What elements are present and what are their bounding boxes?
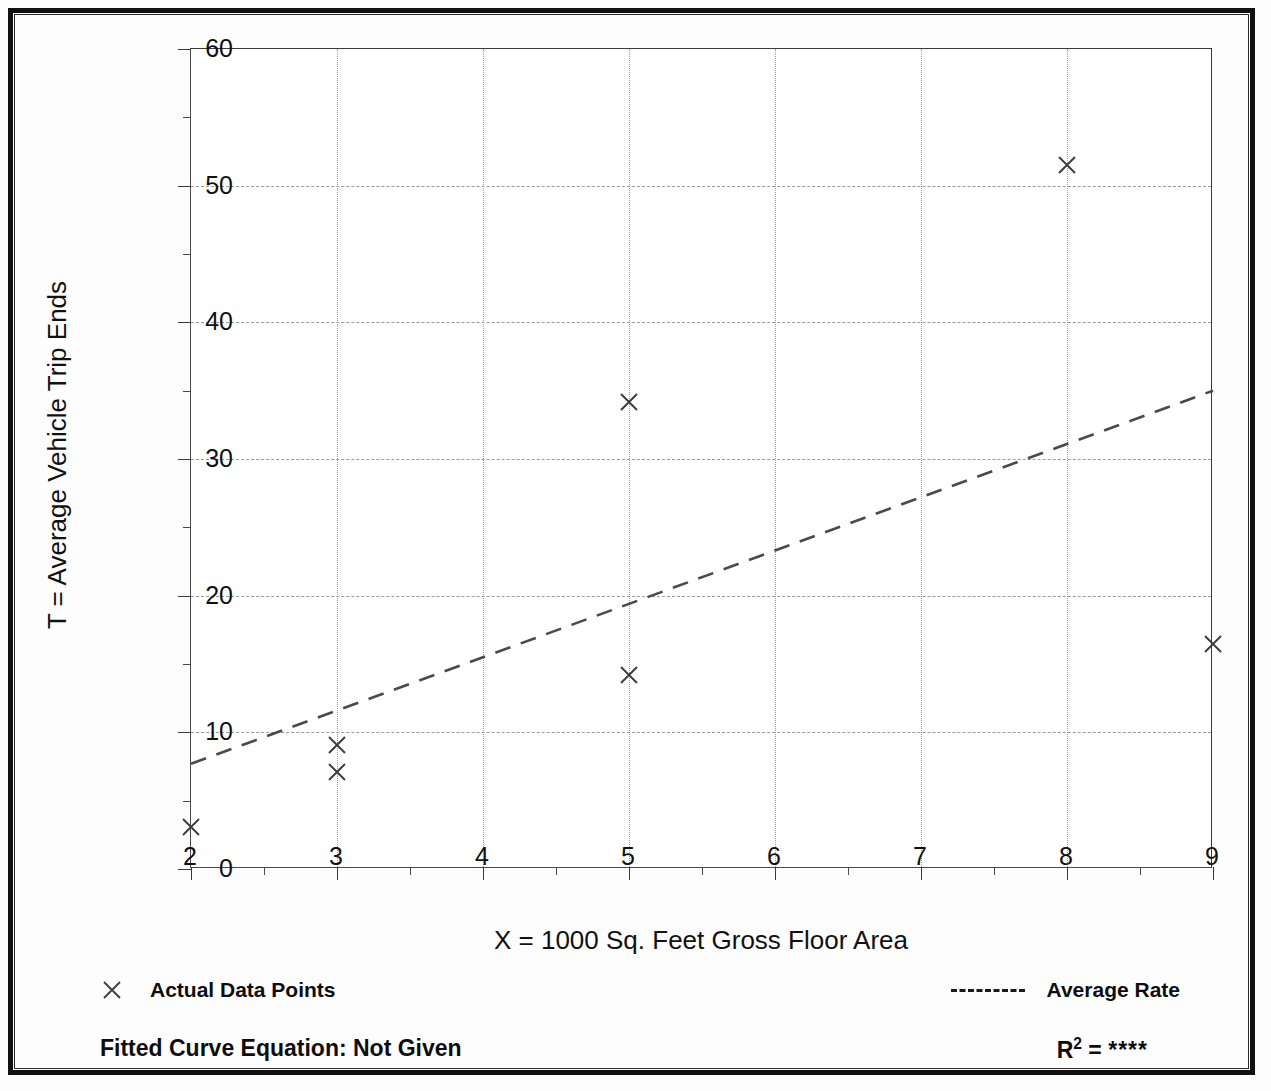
y-tick-label: 50 <box>205 170 233 199</box>
y-tick-label: 20 <box>205 580 233 609</box>
fitted-curve-equation: Fitted Curve Equation: Not Given <box>100 1035 462 1062</box>
chart-footer: Fitted Curve Equation: Not Given R2 = **… <box>100 1035 1180 1075</box>
legend-label-average-rate: Average Rate <box>1047 978 1180 1002</box>
x-marker-icon <box>100 978 124 1002</box>
y-axis-title: T = Average Vehicle Trip Ends <box>42 281 73 629</box>
chart-legend: Actual Data Points Average Rate <box>100 978 1180 1014</box>
y-tick-label: 0 <box>219 854 233 883</box>
r-squared-value: R2 = **** <box>1057 1035 1148 1064</box>
legend-item-actual-data-points: Actual Data Points <box>100 978 336 1002</box>
y-axis-tick <box>178 322 191 323</box>
y-axis-minor-tick <box>183 527 191 528</box>
y-axis-tick <box>178 186 191 187</box>
x-tick-label: 9 <box>1205 842 1219 871</box>
x-tick-label: 8 <box>1059 842 1073 871</box>
r-squared-letter: R <box>1057 1037 1074 1063</box>
x-tick-label: 7 <box>913 842 927 871</box>
data-point-marker <box>326 761 348 783</box>
x-tick-label: 5 <box>621 842 635 871</box>
y-axis-tick <box>178 732 191 733</box>
y-tick-label: 60 <box>205 34 233 63</box>
y-axis-minor-tick <box>183 117 191 118</box>
x-axis-title: X = 1000 Sq. Feet Gross Floor Area <box>190 925 1212 956</box>
legend-item-average-rate: Average Rate <box>951 978 1180 1002</box>
y-axis-tick <box>178 49 191 50</box>
r-squared-exponent: 2 <box>1073 1035 1082 1052</box>
y-tick-label: 10 <box>205 717 233 746</box>
data-point-marker <box>618 664 640 686</box>
data-point-marker <box>618 391 640 413</box>
data-point-marker <box>1202 633 1224 655</box>
trendline-segment <box>191 391 1213 764</box>
data-point-marker <box>1056 154 1078 176</box>
legend-label-actual-data-points: Actual Data Points <box>150 978 336 1002</box>
data-point-marker <box>326 734 348 756</box>
x-tick-label: 2 <box>183 842 197 871</box>
plot-area <box>190 48 1212 868</box>
y-axis-minor-tick <box>183 801 191 802</box>
r-squared-equals: = <box>1082 1037 1108 1063</box>
dashed-line-icon <box>951 989 1025 992</box>
chart-page: T = Average Vehicle Trip Ends 0102030405… <box>0 0 1271 1091</box>
y-tick-label: 40 <box>205 307 233 336</box>
r-squared-stars: **** <box>1108 1037 1148 1063</box>
data-point-marker <box>180 816 202 838</box>
x-tick-label: 3 <box>329 842 343 871</box>
y-axis-tick <box>178 596 191 597</box>
y-axis-minor-tick <box>183 664 191 665</box>
x-tick-label: 6 <box>767 842 781 871</box>
y-axis-tick <box>178 459 191 460</box>
y-tick-label: 30 <box>205 444 233 473</box>
y-axis-minor-tick <box>183 391 191 392</box>
x-tick-label: 4 <box>475 842 489 871</box>
y-axis-minor-tick <box>183 254 191 255</box>
